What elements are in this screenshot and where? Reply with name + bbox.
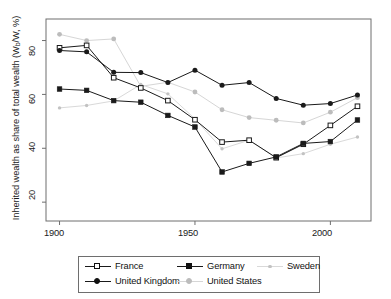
data-point-united-states — [274, 118, 279, 123]
data-point-united-states — [247, 115, 252, 120]
chart-figure: Inherited wealth as share of total wealt… — [0, 0, 391, 299]
series-lines — [57, 32, 360, 174]
data-point-germany — [328, 139, 333, 144]
data-point-germany — [111, 98, 116, 103]
data-point-united-kingdom — [301, 103, 306, 108]
data-point-united-kingdom — [355, 92, 360, 97]
legend-label-united-states: United States — [207, 276, 262, 286]
data-point-germany — [138, 100, 143, 105]
series-line-france — [60, 45, 358, 157]
legend-key-united-states — [177, 276, 203, 286]
plot-area — [0, 0, 391, 299]
legend-label-france: France — [115, 261, 143, 271]
series-line-united-states — [60, 34, 358, 123]
data-point-france — [111, 75, 116, 80]
data-point-france — [166, 98, 171, 103]
data-point-france — [193, 117, 198, 122]
legend-item-united-kingdom[interactable]: United Kingdom — [85, 276, 180, 286]
data-point-united-kingdom — [57, 48, 62, 53]
data-point-united-kingdom — [220, 83, 225, 88]
data-point-sweden — [58, 106, 61, 109]
legend-item-germany[interactable]: Germany — [177, 261, 245, 271]
legend-label-germany: Germany — [207, 261, 245, 271]
data-point-united-states — [220, 107, 225, 112]
data-point-united-kingdom — [111, 70, 116, 75]
data-point-united-kingdom — [247, 80, 252, 85]
legend-item-united-states[interactable]: United States — [177, 276, 262, 286]
data-point-sweden — [166, 92, 169, 95]
data-point-germany — [301, 141, 306, 146]
data-point-germany — [193, 125, 198, 130]
data-point-france — [247, 138, 252, 143]
legend-label-united-kingdom: United Kingdom — [115, 276, 180, 286]
plot-frame — [46, 19, 371, 221]
legend-item-sweden[interactable]: Sweden — [257, 261, 320, 271]
data-point-france — [355, 104, 360, 109]
axis-ticks — [42, 41, 330, 225]
data-point-germany — [84, 88, 89, 93]
data-point-united-kingdom — [165, 80, 170, 85]
data-point-united-kingdom — [84, 49, 89, 54]
data-point-united-states — [57, 32, 62, 37]
data-point-germany — [247, 161, 252, 166]
data-point-united-kingdom — [274, 96, 279, 101]
data-point-united-states — [301, 121, 306, 126]
data-point-sweden — [356, 135, 359, 138]
legend-key-france — [85, 261, 111, 271]
legend-key-germany — [177, 261, 203, 271]
data-point-united-kingdom — [138, 70, 143, 75]
data-point-germany — [166, 113, 171, 118]
series-line-sweden — [60, 84, 358, 158]
legend-key-united-kingdom — [85, 276, 111, 286]
data-point-france — [84, 43, 89, 48]
legend-label-sweden: Sweden — [287, 261, 320, 271]
data-point-united-states — [328, 110, 333, 115]
data-point-united-states — [111, 37, 116, 42]
data-point-germany — [220, 170, 225, 175]
data-point-united-states — [193, 90, 198, 95]
data-point-united-kingdom — [328, 101, 333, 106]
data-point-united-states — [84, 38, 89, 43]
data-point-sweden — [220, 147, 223, 150]
data-point-germany — [57, 87, 62, 92]
data-point-france — [328, 123, 333, 128]
data-point-france — [220, 140, 225, 145]
data-point-sweden — [85, 104, 88, 107]
data-point-sweden — [302, 152, 305, 155]
data-point-united-kingdom — [192, 68, 197, 73]
legend-key-sweden — [257, 261, 283, 271]
legend: France United Kingdom Germany United Sta… — [78, 256, 320, 293]
data-point-germany — [274, 155, 279, 160]
data-point-france — [138, 86, 143, 91]
data-point-germany — [355, 118, 360, 123]
legend-item-france[interactable]: France — [85, 261, 143, 271]
